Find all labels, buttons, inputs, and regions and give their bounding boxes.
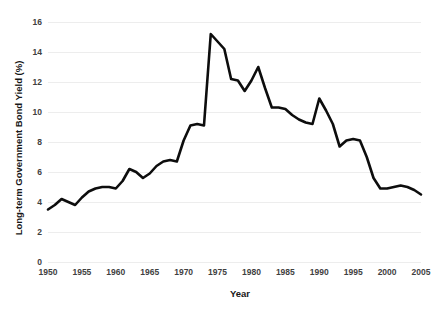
y-axis-tick-label: 0 xyxy=(37,257,42,267)
y-axis-tick-label: 8 xyxy=(37,137,42,147)
line-chart: 0246810121416 19501955196019651970197519… xyxy=(0,0,438,311)
x-axis-tick-label: 1990 xyxy=(310,267,329,277)
x-axis-tick-label: 1975 xyxy=(208,267,227,277)
y-axis-title: Long-term Government Bond Yield (%) xyxy=(13,61,24,236)
x-axis-title: Year xyxy=(230,288,250,299)
x-axis-tick-label: 1985 xyxy=(276,267,295,277)
x-axis-tick-label: 1965 xyxy=(140,267,159,277)
y-axis-tick-labels: 0246810121416 xyxy=(33,17,43,267)
y-axis-tick-label: 6 xyxy=(37,167,42,177)
y-axis-tick-label: 2 xyxy=(37,227,42,237)
x-axis-tick-labels: 1950195519601965197019751980198519901995… xyxy=(39,267,431,277)
y-axis-tick-label: 16 xyxy=(33,17,43,27)
chart-container: 0246810121416 19501955196019651970197519… xyxy=(0,0,438,311)
x-axis-tick-label: 1970 xyxy=(174,267,193,277)
x-axis-tick-label: 2000 xyxy=(378,267,397,277)
y-axis-tick-label: 12 xyxy=(33,77,43,87)
x-axis-tick-label: 1960 xyxy=(106,267,125,277)
x-axis-tick-label: 1995 xyxy=(344,267,363,277)
gridlines-group xyxy=(48,22,421,262)
y-axis-tick-label: 4 xyxy=(37,197,42,207)
x-axis-tick-label: 1955 xyxy=(72,267,91,277)
x-axis-tick-label: 2005 xyxy=(412,267,431,277)
x-axis-tick-label: 1980 xyxy=(242,267,261,277)
y-axis-tick-label: 14 xyxy=(33,47,43,57)
bond-yield-series-line xyxy=(48,34,421,210)
y-axis-tick-label: 10 xyxy=(33,107,43,117)
x-axis-tick-label: 1950 xyxy=(39,267,58,277)
